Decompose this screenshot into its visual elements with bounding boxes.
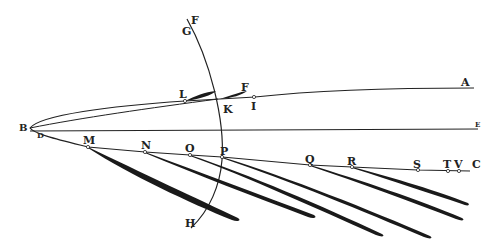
- label-f-top: F: [191, 14, 199, 27]
- label-r: R: [347, 155, 357, 168]
- label-f-tail: F: [241, 81, 249, 94]
- label-l: L: [179, 88, 187, 101]
- label-s: S: [413, 158, 421, 171]
- label-m: M: [83, 134, 95, 147]
- label-t: T: [443, 158, 452, 171]
- label-i: I: [251, 100, 256, 113]
- label-p: P: [220, 145, 228, 158]
- label-a: A: [460, 76, 470, 89]
- label-e: E: [475, 120, 480, 129]
- label-g: G: [182, 25, 191, 38]
- tail-n: [145, 152, 315, 218]
- label-b: B: [19, 122, 27, 133]
- label-o: O: [185, 142, 195, 155]
- label-k: K: [223, 103, 233, 116]
- tail-m: [88, 147, 239, 221]
- label-q: Q: [305, 153, 315, 166]
- orbit-points: [86, 95, 460, 172]
- label-d: D: [37, 130, 44, 140]
- label-c: C: [472, 158, 481, 171]
- label-n: N: [141, 139, 151, 152]
- label-v: V: [453, 158, 463, 171]
- label-h: H: [185, 217, 195, 230]
- orbit-inner-path: [30, 99, 218, 128]
- axis-line-de: [30, 129, 478, 131]
- comet-tails: [88, 91, 469, 238]
- comet-orbit-diagram: G F L F K I A B D E M N O P Q R S T V C …: [0, 0, 495, 248]
